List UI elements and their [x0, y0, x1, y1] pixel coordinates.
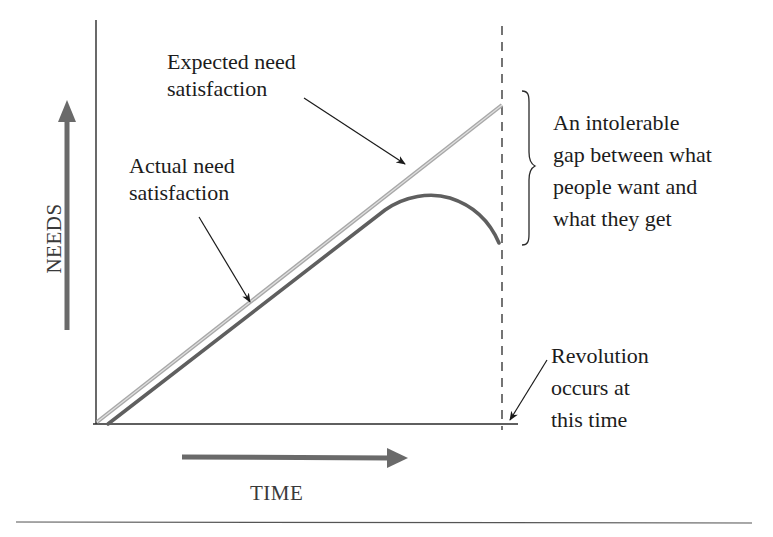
revolution-label: Revolution occurs at this time [551, 340, 649, 436]
actual-need-label: Actual need satisfaction [129, 152, 235, 206]
revolution-pointer-arrow [510, 360, 547, 420]
diagram-canvas [0, 0, 773, 537]
y-axis-title: NEEDS [42, 199, 67, 279]
time-direction-arrow [182, 448, 408, 468]
gap-brace [522, 91, 535, 245]
x-axis-title: TIME [250, 481, 303, 506]
expected-pointer-arrow [304, 98, 405, 164]
gap-label: An intolerable gap between what people w… [553, 107, 712, 235]
bottom-rule [16, 522, 752, 523]
actual-pointer-arrow [199, 217, 250, 302]
expected-need-label: Expected need satisfaction [167, 48, 296, 102]
actual-need-line [108, 195, 499, 424]
